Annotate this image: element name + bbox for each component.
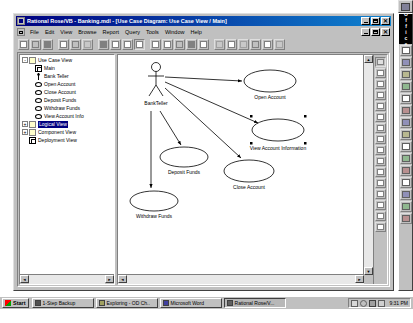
menu-item-file[interactable]: File — [27, 28, 42, 37]
diagram-vertical-scrollbar[interactable]: ▲ ▼ — [363, 55, 373, 275]
usecase-close-account[interactable]: Close Account — [224, 160, 274, 190]
tree-item-deposit-funds[interactable]: Deposit Funds — [20, 96, 114, 104]
actor-bank-teller[interactable]: BankTeller — [144, 63, 168, 107]
expander-icon[interactable]: + — [22, 129, 28, 135]
network-tray-icon[interactable] — [369, 300, 376, 307]
microsoft-bookshelf-button[interactable] — [400, 165, 412, 176]
whats-this-button[interactable] — [122, 39, 133, 50]
extra-toolbar-button[interactable] — [274, 39, 285, 50]
mdi-minimize-button[interactable] — [361, 28, 370, 36]
scroll-up-arrow-icon[interactable]: ▲ — [364, 55, 373, 63]
cut-button[interactable] — [58, 39, 69, 50]
tree-item-withdraw-funds[interactable]: Withdraw Funds — [20, 104, 114, 112]
scroll-right-arrow-icon[interactable]: ► — [355, 275, 364, 283]
tree-item-view-account-info[interactable]: View Account Info — [20, 112, 114, 120]
expander-icon[interactable]: + — [22, 121, 28, 127]
note-tool[interactable] — [375, 79, 386, 89]
tree-item-open-account[interactable]: Open Account — [20, 80, 114, 88]
browser-horizontal-scrollbar[interactable]: ◄ ► — [20, 274, 114, 284]
usecase-withdraw-funds[interactable]: Withdraw Funds — [130, 191, 178, 219]
misc-tray-icon[interactable] — [378, 300, 385, 307]
state-tool[interactable] — [375, 222, 386, 232]
tree-item-bank-teller[interactable]: Bank Teller — [20, 72, 114, 80]
scroll-track[interactable] — [29, 275, 105, 284]
new-office-document-button[interactable] — [400, 45, 412, 56]
tree-item-deployment-view[interactable]: Deployment View — [20, 136, 114, 144]
tree-item-component-view[interactable]: + Component View — [20, 128, 114, 136]
taskbar-item-microsoft-word[interactable]: Microsoft Word — [160, 298, 222, 308]
new-message-button[interactable] — [400, 69, 412, 80]
copy-button[interactable] — [70, 39, 81, 50]
usecase-tool[interactable] — [375, 112, 386, 122]
clock[interactable]: 9:31 PM — [389, 300, 408, 306]
save-file-button[interactable] — [42, 39, 53, 50]
tree-item-close-account[interactable]: Close Account — [20, 88, 114, 96]
scroll-left-arrow-icon[interactable]: ◄ — [118, 275, 127, 283]
unidir-assoc-tool[interactable] — [375, 134, 386, 144]
start-button[interactable]: Start — [2, 298, 29, 308]
new-appointment-button[interactable] — [400, 81, 412, 92]
browse-previous-button[interactable] — [198, 39, 209, 50]
open-file-button[interactable] — [30, 39, 41, 50]
office-bar-toggle[interactable] — [398, 0, 413, 13]
menu-item-view[interactable]: View — [57, 28, 75, 37]
menu-item-query[interactable]: Query — [122, 28, 143, 37]
title-bar[interactable]: Rational Rose/VB - Banking.mdl - [Use Ca… — [16, 16, 391, 26]
open-office-document-button[interactable] — [400, 57, 412, 68]
class-tool[interactable] — [375, 167, 386, 177]
scroll-track[interactable] — [127, 275, 355, 284]
paste-button[interactable] — [82, 39, 93, 50]
zoom-in-button[interactable] — [214, 39, 225, 50]
undo-fit-button[interactable] — [262, 39, 273, 50]
expander-icon[interactable]: - — [22, 57, 28, 63]
new-note-button[interactable] — [400, 129, 412, 140]
volume-tray-icon[interactable] — [360, 300, 367, 307]
tree-item-main[interactable]: Main — [20, 64, 114, 72]
browse-usecase-button[interactable] — [150, 39, 161, 50]
browse-class-button[interactable] — [134, 39, 145, 50]
taskbar-item-rational-rose[interactable]: Rational Rose/V... — [224, 298, 286, 308]
dependency-tool[interactable] — [375, 145, 386, 155]
excel-button[interactable] — [400, 201, 412, 212]
new-journal-button[interactable] — [400, 117, 412, 128]
getting-results-button[interactable] — [400, 153, 412, 164]
usecase-view-account-information[interactable]: View Account Information — [250, 115, 307, 151]
menu-item-edit[interactable]: Edit — [42, 28, 57, 37]
menu-item-window[interactable]: Window — [162, 28, 188, 37]
browse-state-button[interactable] — [174, 39, 185, 50]
usecase-open-account[interactable]: Open Account — [244, 70, 296, 100]
context-help-button[interactable] — [110, 39, 121, 50]
powerpoint-button[interactable] — [400, 213, 412, 224]
browser-tree-pane[interactable]: - Use Case View Main Bank Teller — [19, 54, 115, 285]
generalization-tool[interactable] — [375, 156, 386, 166]
microsoft-outlook-button[interactable] — [400, 141, 412, 152]
selection-tool[interactable] — [375, 57, 386, 67]
minimize-button[interactable] — [361, 17, 370, 25]
anchor-note-tool[interactable] — [375, 90, 386, 100]
assoc-view-account-information[interactable] — [165, 82, 258, 123]
assoc-deposit-funds[interactable] — [160, 111, 181, 145]
scroll-down-arrow-icon[interactable]: ▼ — [364, 267, 373, 275]
text-box-tool[interactable] — [375, 68, 386, 78]
maximize-button[interactable] — [371, 17, 380, 25]
taskbar-item-1-step-backup[interactable]: 1-Step Backup — [32, 298, 94, 308]
scroll-right-arrow-icon[interactable]: ► — [105, 275, 114, 283]
office-bar-title[interactable]: Office — [399, 14, 412, 44]
zoom-out-button[interactable] — [226, 39, 237, 50]
answer-wizard-button[interactable] — [400, 177, 412, 188]
close-button[interactable]: ✕ — [381, 17, 390, 25]
printer-tray-icon[interactable] — [351, 300, 358, 307]
realize-tool[interactable] — [375, 189, 386, 199]
new-contact-button[interactable] — [400, 105, 412, 116]
actor-tool[interactable] — [375, 123, 386, 133]
node-tool[interactable] — [375, 211, 386, 221]
browse-component-button[interactable] — [162, 39, 173, 50]
usecase-deposit-funds[interactable]: Deposit Funds — [160, 147, 208, 175]
interface-tool[interactable] — [375, 178, 386, 188]
component-tool[interactable] — [375, 200, 386, 210]
magnifier-button[interactable] — [250, 39, 261, 50]
scroll-left-arrow-icon[interactable]: ◄ — [20, 275, 29, 283]
selection-handle[interactable] — [250, 115, 253, 118]
assoc-open-account[interactable] — [165, 77, 242, 81]
menu-item-help[interactable]: Help — [187, 28, 204, 37]
